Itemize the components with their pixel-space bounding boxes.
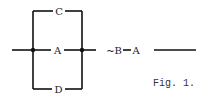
left-junction-dot	[31, 48, 35, 52]
series-label-not-b: ~B	[106, 45, 122, 56]
series-label-a: A	[131, 45, 140, 56]
branch-label-d: D	[54, 84, 62, 95]
branch-label-c: C	[55, 6, 63, 17]
right-junction-dot	[80, 48, 84, 52]
figure-caption: Fig. 1.	[153, 78, 195, 89]
circuit-diagram: C A D ~B A Fig. 1.	[0, 0, 209, 97]
branch-label-a: A	[53, 45, 62, 56]
